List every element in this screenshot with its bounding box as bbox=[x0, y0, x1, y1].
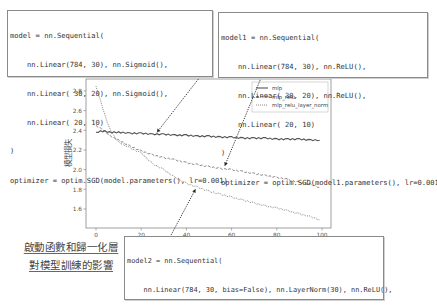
figure-caption: 啟動函數和歸一化層 對模型訓練的影響 bbox=[22, 238, 120, 274]
code-line: model = nn.Sequential( bbox=[10, 31, 210, 41]
code-line: model1 = nn.Sequential( bbox=[221, 33, 425, 43]
svg-text:1.6: 1.6 bbox=[73, 206, 83, 212]
code-box-model1: model1 = nn.Sequential( nn.Linear(784, 3… bbox=[218, 12, 428, 78]
code-box-model: model = nn.Sequential( nn.Linear(784, 30… bbox=[7, 10, 213, 77]
caption-line-2: 對模型訓練的影響 bbox=[22, 256, 120, 274]
caption-line-1: 啟動函數和歸一化層 bbox=[22, 238, 120, 256]
code-line: nn.Linear(784, 30), nn.Sigmoid(), bbox=[10, 60, 210, 70]
code-line: nn.Linear( 30, 20), nn.Sigmoid(), bbox=[10, 89, 210, 99]
code-line: nn.Linear( 30, 20), nn.ReLU(), bbox=[221, 91, 425, 101]
code-line: model2 = nn.Sequential( bbox=[127, 257, 381, 267]
code-line: nn.Linear(784, 30, bias=False), nn.Layer… bbox=[127, 286, 381, 296]
code-line: ) bbox=[221, 148, 425, 158]
code-line: nn.Linear(784, 30), nn.ReLU(), bbox=[221, 62, 425, 72]
code-line: nn.Linear( 20, 10) bbox=[221, 120, 425, 130]
code-line: ) bbox=[10, 146, 210, 156]
code-line: nn.Linear( 20, 10) bbox=[10, 118, 210, 128]
code-box-model2: model2 = nn.Sequential( nn.Linear(784, 3… bbox=[124, 236, 384, 300]
code-line: optimizer = optim.SGD(model.parameters()… bbox=[10, 176, 210, 186]
code-line: optimizer = optim.SGD(model1.parameters(… bbox=[221, 178, 425, 188]
